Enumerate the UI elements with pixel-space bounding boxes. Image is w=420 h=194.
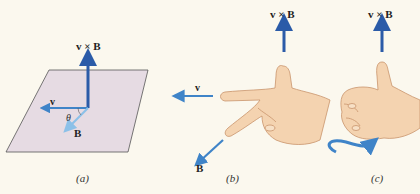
caption-a: (a) (76, 172, 89, 184)
diagram-canvas (0, 0, 420, 194)
label-v-b: v (195, 82, 200, 93)
label-cross-product-c: v × B (368, 8, 393, 20)
panel-b (178, 22, 330, 162)
caption-c: (c) (371, 172, 383, 184)
label-cross-product-a: v × B (76, 40, 101, 52)
rotation-arrow (329, 141, 372, 152)
label-B-a: B (74, 127, 81, 139)
panel-c (329, 22, 420, 152)
right-hand-thumbs-up (341, 62, 420, 139)
label-B-b: B (196, 162, 203, 174)
label-cross-product-b: v × B (270, 8, 295, 20)
label-v-a: v (50, 96, 55, 107)
right-hand-pointing (221, 65, 331, 144)
plane (6, 70, 148, 152)
B-arrow (199, 140, 223, 162)
label-theta: θ (66, 112, 71, 123)
caption-b: (b) (226, 172, 239, 184)
